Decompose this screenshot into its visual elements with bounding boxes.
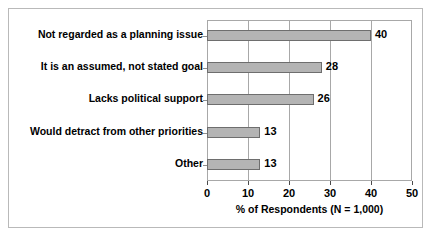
x-axis-tick: [412, 181, 413, 185]
bar-row: Would detract from other priorities13: [207, 117, 412, 149]
bar: [207, 127, 260, 138]
bar: [207, 62, 322, 73]
x-axis-tick-label: 40: [351, 186, 391, 200]
bar-value-label: 40: [375, 27, 387, 41]
x-axis-tick: [371, 181, 372, 185]
x-axis-tick: [248, 181, 249, 185]
category-label: Would detract from other priorities: [3, 124, 203, 138]
x-axis-tick-label: 20: [269, 186, 309, 200]
chart-figure: Not regarded as a planning issue40It is …: [8, 8, 423, 228]
bar-value-label: 13: [264, 156, 276, 170]
category-label: It is an assumed, not stated goal: [3, 59, 203, 73]
x-axis-tick-label: 0: [187, 186, 227, 200]
bar-row: Other13: [207, 149, 412, 181]
plot-area: Not regarded as a planning issue40It is …: [207, 20, 412, 181]
x-axis-tick-label: 10: [228, 186, 268, 200]
x-axis-tick: [289, 181, 290, 185]
bar-row: Lacks political support26: [207, 84, 412, 116]
x-axis-title: % of Respondents (N = 1,000): [207, 203, 412, 215]
bar-value-label: 13: [264, 124, 276, 138]
category-label: Lacks political support: [3, 91, 203, 105]
bar-value-label: 28: [326, 59, 338, 73]
bar: [207, 159, 260, 170]
bar-value-label: 26: [318, 91, 330, 105]
x-axis-tick-label: 50: [392, 186, 432, 200]
x-axis-tick: [207, 181, 208, 185]
bar-row: Not regarded as a planning issue40: [207, 20, 412, 52]
category-label: Other: [3, 156, 203, 170]
bar-row: It is an assumed, not stated goal28: [207, 52, 412, 84]
x-axis-tick: [330, 181, 331, 185]
x-axis-tick-label: 30: [310, 186, 350, 200]
bar: [207, 94, 314, 105]
category-label: Not regarded as a planning issue: [3, 27, 203, 41]
bar: [207, 30, 371, 41]
